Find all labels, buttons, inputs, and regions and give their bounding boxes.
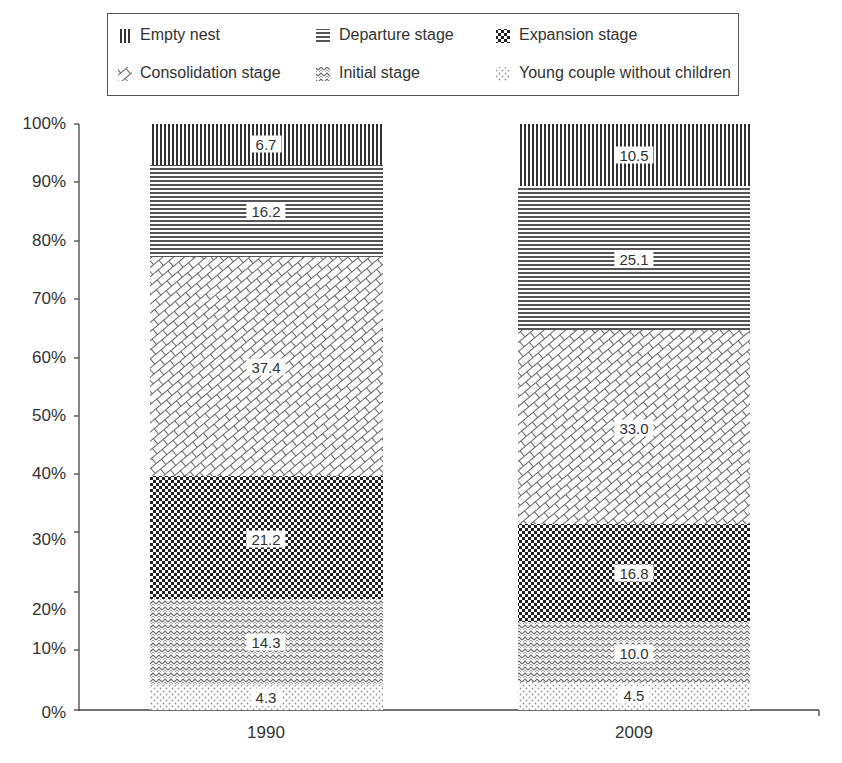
y-tick-label: 30% — [6, 530, 66, 550]
y-tick-label: 90% — [6, 172, 66, 192]
legend-label: Empty nest — [140, 26, 220, 44]
y-tick-label: 40% — [6, 464, 66, 484]
y-tick-label: 20% — [6, 600, 66, 620]
legend-item-expansion-stage: Expansion stage — [519, 26, 637, 44]
value-label-departure-1990: 16.2 — [246, 203, 285, 220]
value-label-young-1990: 4.3 — [251, 689, 282, 706]
value-label-empty-nest-1990: 6.7 — [251, 136, 282, 153]
x-axis — [79, 710, 819, 716]
bar-2009 — [518, 124, 750, 710]
y-tick-label: 100% — [6, 114, 66, 134]
y-tick-label: 0% — [6, 703, 66, 723]
value-label-expansion-2009: 16.8 — [614, 565, 653, 582]
legend-label: Initial stage — [339, 64, 420, 82]
y-tick-label: 80% — [6, 231, 66, 251]
y-tick-label: 70% — [6, 289, 66, 309]
y-tick-label: 10% — [6, 639, 66, 659]
legend: Empty nest Departure stage Expansion sta… — [107, 13, 739, 96]
value-label-departure-2009: 25.1 — [614, 251, 653, 268]
value-label-young-2009: 4.5 — [619, 687, 650, 704]
value-label-expansion-1990: 21.2 — [246, 531, 285, 548]
y-axis — [74, 124, 79, 711]
y-tick-label: 50% — [6, 406, 66, 426]
legend-label: Departure stage — [339, 26, 454, 44]
legend-label: Expansion stage — [519, 26, 637, 44]
legend-item-departure-stage: Departure stage — [339, 26, 454, 44]
legend-item-initial-stage: Initial stage — [339, 64, 420, 82]
value-label-initial-1990: 14.3 — [246, 634, 285, 651]
legend-label: Consolidation stage — [140, 64, 281, 82]
legend-item-young-couple: Young couple without children — [519, 64, 731, 82]
legend-item-consolidation-stage: Consolidation stage — [140, 64, 281, 82]
x-tick-label-1990: 1990 — [216, 723, 316, 743]
x-tick-label-2009: 2009 — [584, 723, 684, 743]
legend-label: Young couple without children — [519, 64, 731, 82]
legend-item-empty-nest: Empty nest — [140, 26, 220, 44]
stacked-bar-chart — [0, 0, 842, 763]
value-label-consolidation-1990: 37.4 — [246, 359, 285, 376]
value-label-initial-2009: 10.0 — [614, 645, 653, 662]
value-label-consolidation-2009: 33.0 — [614, 420, 653, 437]
value-label-empty-nest-2009: 10.5 — [614, 147, 653, 164]
y-tick-label: 60% — [6, 348, 66, 368]
